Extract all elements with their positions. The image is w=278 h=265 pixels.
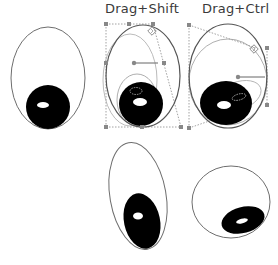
pupil-highlight (133, 98, 147, 106)
eye-drag-shift-editing (103, 22, 183, 129)
pupil-highlight (217, 101, 231, 109)
eye-result-shift (101, 138, 175, 254)
pupil (26, 85, 70, 129)
pupil-highlight (37, 102, 49, 108)
rotate-cursor-icon (250, 45, 258, 53)
pupil-highlight (133, 213, 143, 220)
eye-drag-ctrl-editing (187, 23, 269, 130)
eye-result-ctrl (192, 166, 270, 238)
eye-original (11, 27, 85, 129)
